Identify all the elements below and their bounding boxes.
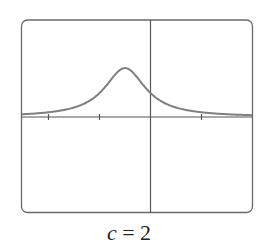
plot-frame [22,20,253,213]
function-curve [22,68,252,115]
caption-variable: c [107,220,117,245]
caption-equals: = [122,220,134,245]
caption-value: 2 [140,220,151,245]
graph [0,0,258,220]
caption: c = 2 [0,220,258,246]
